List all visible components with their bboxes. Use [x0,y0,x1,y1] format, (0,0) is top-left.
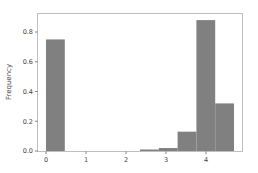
y-axis-ticks: 0.00.20.40.60.8 [23,28,38,155]
histogram-chart: 0.00.20.40.60.8 01234 Frequency [0,0,258,173]
histogram-bar [178,132,197,151]
histogram-bar [196,20,215,151]
y-tick-label: 0.0 [23,147,33,155]
x-tick-label: 0 [44,156,48,164]
x-tick-label: 3 [164,156,168,164]
x-tick-label: 4 [204,156,208,164]
y-tick-label: 0.8 [23,28,33,36]
x-tick-label: 2 [124,156,128,164]
x-tick-label: 1 [84,156,88,164]
x-axis-ticks: 01234 [44,152,208,165]
y-tick-label: 0.2 [23,118,33,126]
y-tick-label: 0.4 [23,88,33,96]
histogram-bar [46,39,65,151]
bars-group [46,20,234,151]
histogram-bar [159,148,178,151]
y-axis-label: Frequency [5,64,13,100]
histogram-bar [140,150,159,151]
histogram-bar [215,103,234,151]
y-tick-label: 0.6 [23,58,33,66]
